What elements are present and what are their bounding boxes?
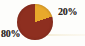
pie-slices xyxy=(17,4,53,40)
pie-chart-figure: 80% 20% xyxy=(0,0,85,46)
slice-label-major: 80% xyxy=(1,29,20,39)
slice-label-minor: 20% xyxy=(58,7,77,17)
pie-chart-graphic xyxy=(17,4,53,40)
